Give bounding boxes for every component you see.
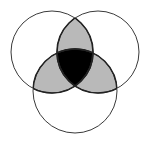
venn-diagram [0,0,148,144]
